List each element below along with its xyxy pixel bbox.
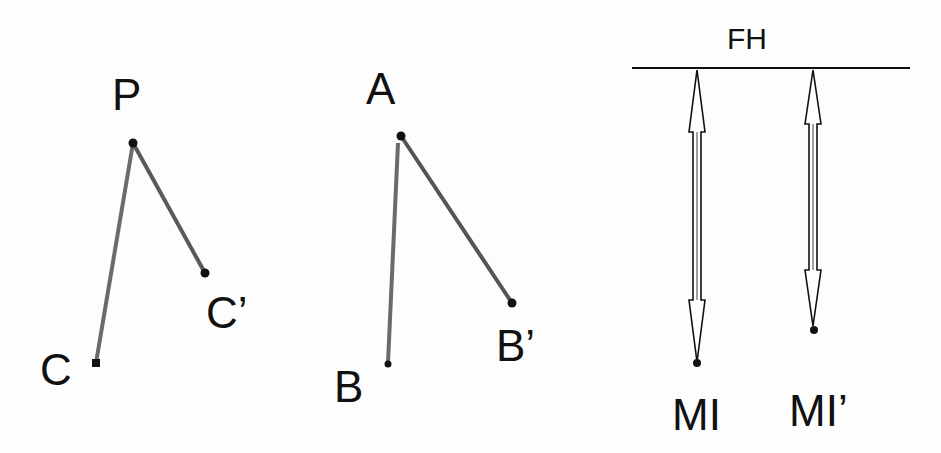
label-fh: FH <box>727 22 767 55</box>
label-b-prime: B’ <box>496 321 535 370</box>
segment-a-b <box>388 143 398 363</box>
point-a <box>397 132 406 141</box>
label-p: P <box>112 70 141 119</box>
point-mi <box>693 359 701 367</box>
double-arrow-mi-icon <box>689 70 705 362</box>
point-b <box>385 361 392 368</box>
point-mi-prime <box>810 326 818 334</box>
point-c-prime <box>201 269 210 278</box>
diagram-canvas: P C’ C A B’ B FH MI MI’ <box>0 0 941 453</box>
label-mi: MI <box>672 390 721 439</box>
label-c: C <box>40 345 72 394</box>
segment-p-c <box>96 143 133 363</box>
segment-p-c-prime <box>133 143 205 273</box>
point-b-prime <box>508 299 517 308</box>
label-c-prime: C’ <box>206 288 248 337</box>
point-p <box>129 139 138 148</box>
label-mi-prime: MI’ <box>789 386 848 435</box>
panel-right: FH MI MI’ <box>632 22 910 439</box>
double-arrow-mi-prime-icon <box>805 70 821 326</box>
point-c <box>92 359 100 367</box>
label-b: B <box>334 362 363 411</box>
panel-left: P C’ C <box>40 70 248 394</box>
label-a: A <box>366 64 396 113</box>
panel-middle: A B’ B <box>334 64 535 411</box>
segment-a-b-prime <box>401 136 512 303</box>
